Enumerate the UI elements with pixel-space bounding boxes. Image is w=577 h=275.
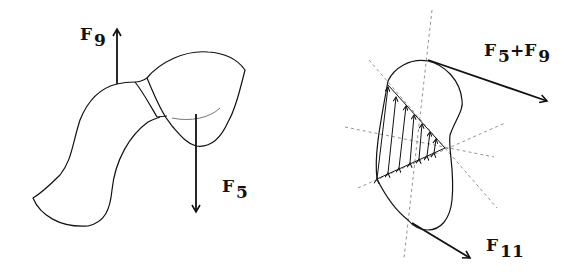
ramus-outline bbox=[33, 84, 160, 226]
f11-label-sub: 11 bbox=[500, 241, 524, 261]
f5-label: F5 bbox=[222, 178, 248, 201]
f5-label-base: F bbox=[222, 176, 234, 196]
f5-plus-f9-label-sub1: 5 bbox=[498, 46, 510, 66]
f5-plus-f9-label: F5+F9 bbox=[484, 42, 550, 65]
stress-distribution-arrows bbox=[377, 85, 445, 179]
f5-plus-f9-label-base1: F bbox=[484, 40, 496, 60]
f9-label-sub: 9 bbox=[94, 30, 106, 50]
f11-label: F11 bbox=[486, 237, 524, 260]
f11-label-base: F bbox=[486, 235, 498, 255]
f9-label-base: F bbox=[80, 24, 92, 44]
f5-plus-f9-label-base2: F bbox=[524, 40, 536, 60]
dashed-reference-lines bbox=[345, 10, 505, 258]
f5-plus-f9-label-sub2: 9 bbox=[538, 46, 550, 66]
f5-plus-f9-force-arrow bbox=[428, 60, 547, 101]
f11-force-arrow bbox=[412, 223, 470, 258]
f9-label: F9 bbox=[80, 26, 106, 49]
f5-plus-f9-label-plus: + bbox=[510, 40, 524, 60]
left-anatomy-drawing bbox=[33, 52, 245, 226]
f5-label-sub: 5 bbox=[236, 182, 248, 202]
